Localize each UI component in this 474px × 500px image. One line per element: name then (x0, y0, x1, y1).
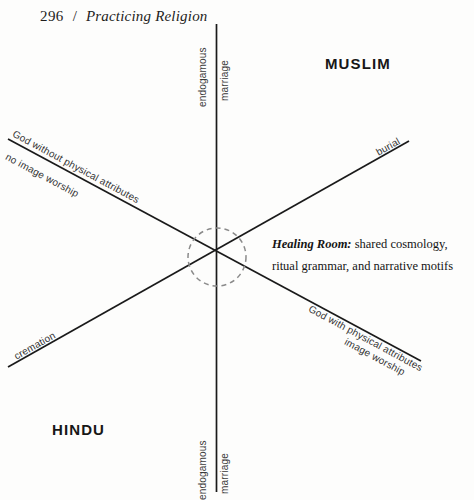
annotation-line-one: shared cosmology, (355, 237, 448, 251)
annotation-lead-in: Healing Room: (272, 237, 352, 251)
axis-label-top-endogamous: endogamous (197, 47, 208, 107)
axis-label-top-marriage: marriage (219, 60, 230, 101)
corner-label-muslim: MUSLIM (325, 55, 391, 72)
book-page: 296 / Practicing Religion endogamous mar… (0, 0, 474, 500)
healing-room-annotation: Healing Room: shared cosmology, ritual g… (272, 234, 472, 277)
corner-label-hindu: HINDU (52, 421, 105, 438)
annotation-line-two: ritual grammar, and narrative motifs (272, 259, 453, 273)
axis-label-bottom-endogamous: endogamous (197, 440, 208, 500)
axis-label-bottom-marriage: marriage (219, 453, 230, 494)
